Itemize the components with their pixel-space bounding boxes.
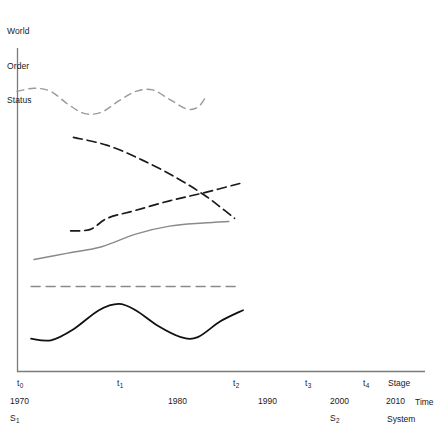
- stage-tick-subscript: 4: [366, 382, 370, 389]
- time-tick-2000: 2000: [330, 396, 349, 406]
- series-group: [17, 88, 243, 340]
- system-tick-base: S: [330, 413, 336, 423]
- system-tick-base: S: [10, 413, 16, 423]
- stage-tick-t2: t2: [233, 378, 239, 388]
- y-axis-title: World Order Status: [7, 3, 32, 130]
- y-axis-title-line-1: World: [7, 26, 32, 38]
- series-line-oscillating-solid-black: [31, 304, 243, 341]
- stage-tick-subscript: 2: [236, 382, 240, 389]
- y-axis-title-line-3: Status: [7, 95, 32, 107]
- axis-lines: [17, 48, 425, 372]
- system-tick-subscript: 2: [336, 417, 340, 424]
- time-tick-1990: 1990: [258, 396, 277, 406]
- stage-tick-subscript: 0: [20, 382, 24, 389]
- system-tick-s1: S1: [10, 413, 19, 423]
- time-tick-1970: 1970: [10, 396, 29, 406]
- series-line-wavy-dashed-gray-top: [17, 88, 206, 114]
- stage-tick-t1: t1: [117, 378, 123, 388]
- stage-row-label: Stage: [388, 378, 410, 388]
- stage-tick-subscript: 3: [308, 382, 312, 389]
- stage-tick-t3: t3: [305, 378, 311, 388]
- time-row-label: Time: [415, 397, 434, 407]
- system-tick-subscript: 1: [16, 417, 20, 424]
- series-line-ascending-dashed-black: [71, 183, 241, 231]
- system-tick-s2: S2: [330, 413, 339, 423]
- stage-tick-t0: t0: [17, 378, 23, 388]
- stage-tick-subscript: 1: [120, 382, 124, 389]
- system-row-label: System: [387, 414, 415, 424]
- y-axis-title-line-2: Order: [7, 61, 32, 73]
- series-line-descending-dashed-black: [74, 137, 235, 218]
- series-line-rising-solid-gray: [34, 221, 229, 259]
- time-tick-2010: 2010: [386, 396, 405, 406]
- stage-tick-t4: t4: [363, 378, 369, 388]
- time-tick-1980: 1980: [168, 396, 187, 406]
